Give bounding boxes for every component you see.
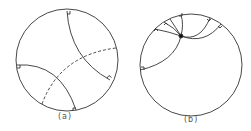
- right-angle-marker: [17, 65, 20, 68]
- geodesic-a3-dashed: [42, 48, 116, 104]
- geodesic-b3: [164, 22, 221, 39]
- panel-label-b: (b): [184, 115, 198, 124]
- right-angle-marker: [107, 76, 112, 79]
- geodesic-a2: [17, 65, 76, 110]
- panel-b: [140, 13, 242, 116]
- right-angle-marker: [164, 23, 168, 25]
- panel-label-a: (a): [58, 112, 72, 121]
- boundary-circle-a: [16, 9, 118, 111]
- right-angle-marker: [179, 13, 182, 16]
- marked-point: [179, 34, 183, 38]
- diagram-canvas: [0, 0, 251, 131]
- right-angle-marker: [218, 26, 222, 28]
- panel-a: [16, 9, 118, 111]
- geodesic-a1: [67, 11, 110, 80]
